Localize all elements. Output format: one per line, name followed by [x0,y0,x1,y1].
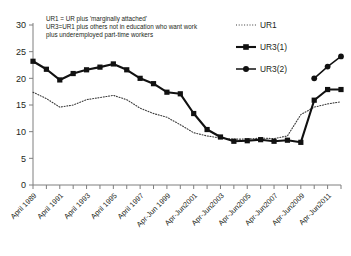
y-tick-label: 30 [16,20,26,30]
data-point-marker [44,67,49,72]
data-point-marker [57,77,62,82]
annotation-line: plus underemployed part-time workers [46,31,153,39]
legend-label: UR3(1) [260,42,287,52]
data-point-marker [325,87,330,92]
data-point-marker [218,134,223,139]
data-point-marker [97,65,102,70]
data-point-marker [84,67,89,72]
y-tick-label: 10 [16,127,26,137]
data-point-marker [312,98,317,103]
y-tick-label: 25 [16,47,26,57]
y-tick-label: 20 [16,74,26,84]
data-point-marker [338,54,344,60]
legend-label: UR1 [260,20,277,30]
data-point-marker [151,81,156,86]
data-point-marker [191,111,196,116]
data-point-marker [111,61,116,66]
data-point-marker [231,139,236,144]
data-point-marker [271,139,276,144]
data-point-marker [298,140,303,145]
chart-container: 051015202530 UR1 = UR plus 'marginally a… [0,0,351,256]
data-point-marker [285,138,290,143]
data-point-marker [124,67,129,72]
y-tick-label: 15 [16,100,26,110]
y-tick-label: 0 [21,180,26,190]
annotation-line: UR3=UR1 plus others not in education who… [46,23,198,31]
legend-swatch-square-marker [243,44,249,50]
legend-label: UR3(2) [260,64,287,74]
data-point-marker [164,90,169,95]
legend-swatch-circle-marker [243,66,249,72]
data-point-marker [338,87,343,92]
data-point-marker [138,76,143,81]
data-point-marker [325,64,331,70]
unemployment-rate-line-chart: 051015202530 UR1 = UR plus 'marginally a… [0,0,351,256]
data-point-marker [311,75,317,81]
data-point-marker [245,138,250,143]
data-point-marker [258,137,263,142]
data-point-marker [30,59,35,64]
annotation-line: UR1 = UR plus 'marginally attached' [46,15,147,23]
data-point-marker [71,71,76,76]
y-tick-label: 5 [21,154,26,164]
data-point-marker [178,91,183,96]
data-point-marker [204,127,209,132]
